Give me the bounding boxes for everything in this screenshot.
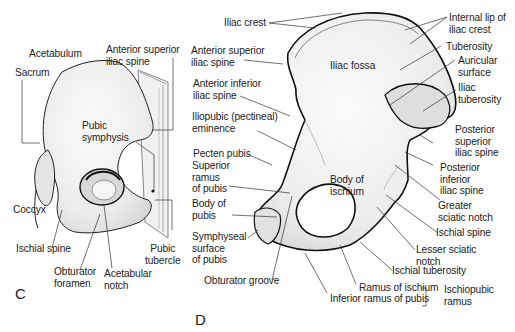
label-pubic-symphysis: Pubic symphysis	[82, 120, 129, 143]
label-line: inferior	[440, 174, 484, 186]
label-line: Pubic	[145, 243, 180, 255]
label-line: Anterior superior	[106, 44, 180, 56]
label-line: surface	[192, 243, 247, 255]
label-line: iliac spine	[455, 147, 499, 159]
label-inferior-ramus-of-pubis: Inferior ramus of pubis	[330, 293, 429, 305]
label-internal-lip-of-iliac-crest: Internal lip of iliac crest	[449, 12, 506, 35]
label-line: foramen	[54, 278, 96, 290]
label-sacrum: Sacrum	[15, 67, 50, 79]
label-posterior-superior-iliac-spine: Posterior superior iliac spine	[455, 124, 499, 159]
label-line: Anterior superior	[191, 45, 265, 57]
label-greater-sciatic-notch: Greater sciatic notch	[438, 200, 493, 223]
label-line: iliac spine	[191, 57, 265, 69]
label-iliopubic-eminence: Iliopubic (pectineal) eminence	[192, 111, 278, 134]
label-posterior-inferior-iliac-spine: Posterior inferior iliac spine	[440, 162, 484, 197]
label-obturator-groove: Obturator groove	[204, 275, 279, 287]
label-ramus-of-ischium: Ramus of ischium	[359, 282, 438, 294]
label-line: Superior	[192, 160, 230, 172]
label-lesser-sciatic-notch: Lesser sciatic notch	[416, 244, 476, 267]
label-ischial-spine-d: Ischial spine	[436, 227, 491, 239]
label-line: ischium	[330, 186, 364, 198]
label-line: Greater	[438, 200, 493, 212]
label-line: of pubis	[192, 254, 247, 266]
label-obturator-foramen: Obturator foramen	[54, 266, 96, 289]
label-pubic-tubercle: Pubic tubercle	[145, 243, 180, 266]
panel-letter-d: D	[195, 311, 206, 328]
label-pecten-pubis: Pecten pubis	[193, 148, 251, 160]
label-ischial-tuberosity: Ischial tuberosity	[392, 265, 466, 277]
label-line: Body of	[330, 174, 364, 186]
label-line: Acetabular	[104, 268, 152, 280]
label-line: surface	[458, 67, 497, 79]
label-line: eminence	[192, 123, 278, 135]
label-superior-ramus-of-pubis: Superior ramus of pubis	[192, 160, 230, 195]
label-line: symphysis	[82, 132, 129, 144]
label-line: superior	[455, 136, 499, 148]
label-line: Posterior	[440, 162, 484, 174]
label-line: iliac spine	[106, 56, 180, 68]
label-auricular-surface: Auricular surface	[458, 55, 497, 78]
label-line: iliac spine	[440, 185, 484, 197]
label-line: Posterior	[455, 124, 499, 136]
label-line: iliac spine	[193, 90, 261, 102]
panel-d-drawing	[254, 13, 456, 251]
label-coccyx: Coccyx	[13, 204, 46, 216]
label-iliac-tuberosity: Iliac tuberosity	[458, 82, 501, 105]
label-line: Anterior inferior	[193, 78, 261, 90]
panel-letter-c: C	[15, 285, 26, 302]
label-acetabulum: Acetabulum	[29, 48, 82, 60]
label-line: ramus	[444, 296, 494, 308]
label-ischiopubic-ramus: Ischiopubic ramus	[444, 284, 494, 307]
label-line: Symphyseal	[192, 231, 247, 243]
label-anterior-inferior-iliac-spine: Anterior inferior iliac spine	[193, 78, 261, 101]
label-line: ramus	[192, 172, 230, 184]
label-line: tuberosity	[458, 94, 501, 106]
label-line: Body of	[192, 198, 226, 210]
label-line: Auricular	[458, 55, 497, 67]
label-line: Internal lip of	[449, 12, 506, 24]
label-body-of-ischium: Body of ischium	[330, 174, 364, 197]
label-anterior-superior-iliac-spine-c: Anterior superior iliac spine	[106, 44, 180, 67]
label-body-of-pubis: Body of pubis	[192, 198, 226, 221]
label-tuberosity: Tuberosity	[446, 41, 492, 53]
label-line: of pubis	[192, 183, 230, 195]
label-line: Lesser sciatic	[416, 244, 476, 256]
label-line: iliac crest	[449, 24, 506, 36]
label-line: tubercle	[145, 255, 180, 267]
label-ischial-spine-c: Ischial spine	[16, 243, 71, 255]
label-symphyseal-surface: Symphyseal surface of pubis	[192, 231, 247, 266]
label-line: pubis	[192, 210, 226, 222]
label-line: Iliac	[458, 82, 501, 94]
label-iliac-fossa: Iliac fossa	[330, 60, 375, 71]
label-line: sciatic notch	[438, 212, 493, 224]
label-acetabular-notch: Acetabular notch	[104, 268, 152, 291]
label-line: notch	[104, 280, 152, 292]
label-line: Obturator	[54, 266, 96, 278]
label-line: Ischiopubic	[444, 284, 494, 296]
panel-c-drawing	[35, 60, 168, 238]
label-line: Pubic	[82, 120, 129, 132]
label-anterior-superior-iliac-spine-d: Anterior superior iliac spine	[191, 45, 265, 68]
label-line: Iliopubic (pectineal)	[192, 111, 278, 123]
label-iliac-crest: Iliac crest	[224, 17, 266, 29]
